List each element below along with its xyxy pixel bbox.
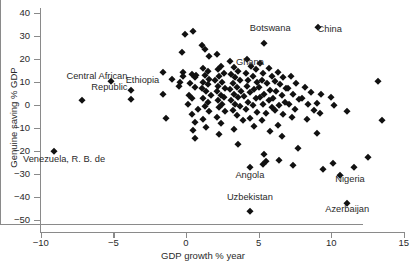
data-point bbox=[364, 154, 370, 160]
data-point bbox=[202, 45, 208, 51]
y-tick-mark bbox=[34, 174, 40, 175]
data-point bbox=[331, 102, 337, 108]
data-point bbox=[168, 75, 174, 81]
point-annotation-label: Nigeria bbox=[335, 174, 364, 185]
data-point bbox=[206, 108, 212, 114]
data-point bbox=[261, 151, 267, 157]
data-point bbox=[206, 52, 212, 58]
data-point bbox=[207, 91, 213, 97]
data-point bbox=[260, 101, 266, 107]
data-point bbox=[266, 65, 272, 71]
data-point bbox=[344, 108, 350, 114]
data-point bbox=[316, 110, 322, 116]
data-point bbox=[279, 91, 285, 97]
data-point bbox=[178, 49, 184, 55]
data-point bbox=[191, 74, 197, 80]
data-point bbox=[160, 90, 166, 96]
y-tick-mark bbox=[34, 128, 40, 129]
data-point bbox=[258, 117, 264, 123]
data-point bbox=[213, 113, 219, 119]
zero-horizontal-reference-line bbox=[0, 224, 363, 225]
x-tick-label: 5 bbox=[239, 238, 279, 248]
data-point bbox=[276, 102, 282, 108]
data-point bbox=[313, 99, 319, 105]
data-point bbox=[78, 97, 84, 103]
data-point bbox=[254, 109, 260, 115]
data-point bbox=[276, 157, 282, 163]
data-point bbox=[160, 68, 166, 74]
data-point bbox=[263, 110, 269, 116]
data-point bbox=[305, 101, 311, 107]
data-point bbox=[260, 70, 266, 76]
data-point bbox=[286, 101, 292, 107]
point-annotation-label: Central African Republic bbox=[41, 71, 127, 92]
data-point bbox=[308, 89, 314, 95]
x-tick-label: 0 bbox=[166, 238, 206, 248]
y-tick-mark bbox=[34, 197, 40, 198]
data-point bbox=[222, 108, 228, 114]
data-point bbox=[242, 105, 248, 111]
x-tick-label: 15 bbox=[384, 238, 414, 248]
data-point bbox=[184, 101, 190, 107]
data-point bbox=[213, 51, 219, 57]
data-point bbox=[215, 66, 221, 72]
data-point bbox=[221, 94, 227, 100]
x-tick-label: 10 bbox=[311, 238, 351, 248]
data-point bbox=[218, 120, 224, 126]
y-tick-mark bbox=[34, 36, 40, 37]
data-point bbox=[292, 105, 298, 111]
data-point bbox=[280, 111, 286, 117]
data-point bbox=[247, 208, 253, 214]
data-point bbox=[128, 96, 134, 102]
data-point bbox=[190, 127, 196, 133]
point-annotation-label: Azerbaijan bbox=[325, 204, 369, 215]
data-point bbox=[189, 111, 195, 117]
point-annotation-label: Venezuela, R. B. de bbox=[23, 154, 105, 165]
data-point bbox=[287, 73, 293, 79]
data-point bbox=[290, 90, 296, 96]
data-point bbox=[279, 133, 285, 139]
data-point bbox=[239, 117, 245, 123]
data-point bbox=[295, 144, 301, 150]
y-tick-mark bbox=[34, 151, 40, 152]
data-point bbox=[191, 119, 197, 125]
data-point bbox=[252, 66, 258, 72]
point-annotation-label: Ghana bbox=[236, 57, 264, 68]
y-tick-label: 40 bbox=[2, 8, 30, 18]
x-axis-title: GDP growth % year bbox=[0, 250, 406, 261]
data-point bbox=[274, 68, 280, 74]
data-point bbox=[379, 117, 385, 123]
point-annotation-label: Angola bbox=[235, 170, 264, 181]
x-tick-label: −10 bbox=[21, 238, 61, 248]
data-point bbox=[280, 74, 286, 80]
y-axis-line bbox=[40, 8, 41, 233]
x-axis-line bbox=[40, 232, 404, 233]
x-tick-label: −5 bbox=[93, 238, 133, 248]
data-point bbox=[329, 159, 335, 165]
data-point bbox=[234, 112, 240, 118]
y-tick-mark bbox=[34, 82, 40, 83]
y-tick-mark bbox=[34, 105, 40, 106]
data-point bbox=[318, 90, 324, 96]
data-point bbox=[235, 141, 241, 147]
data-point bbox=[290, 162, 296, 168]
data-point bbox=[302, 83, 308, 89]
data-point bbox=[180, 73, 186, 79]
data-point bbox=[328, 94, 334, 100]
data-point bbox=[235, 67, 241, 73]
data-point bbox=[247, 89, 253, 95]
point-annotation-label: Botswana bbox=[250, 23, 291, 34]
data-point bbox=[274, 121, 280, 127]
data-point bbox=[194, 105, 200, 111]
y-tick-mark bbox=[34, 59, 40, 60]
point-annotation-label: Ethiopia bbox=[126, 75, 160, 86]
data-point bbox=[216, 131, 222, 137]
data-point bbox=[313, 129, 319, 135]
data-point bbox=[191, 135, 197, 141]
data-point bbox=[247, 114, 253, 120]
data-point bbox=[303, 116, 309, 122]
data-point bbox=[289, 113, 295, 119]
data-point bbox=[191, 83, 197, 89]
